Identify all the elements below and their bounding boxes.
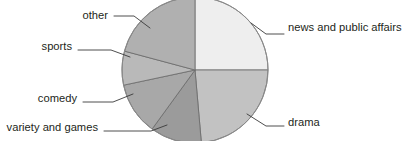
leader-line-drama: [247, 114, 284, 126]
slice-label-drama: drama: [288, 116, 320, 128]
slice-label-variety-and-games: variety and games: [7, 121, 99, 133]
slice-label-comedy: comedy: [38, 92, 78, 104]
slice-label-sports: sports: [42, 40, 73, 52]
pie-chart-svg: news and public affairsdramavariety and …: [0, 0, 420, 141]
pie-slices-group: [122, 0, 268, 141]
pie-slice-drama: [195, 70, 268, 141]
pie-slice-news-and-public-affairs: [195, 0, 268, 70]
pie-chart-figure: news and public affairsdramavariety and …: [0, 0, 420, 141]
leader-line-sports: [78, 50, 130, 57]
slice-label-news-and-public-affairs: news and public affairs: [288, 21, 402, 33]
slice-label-other: other: [83, 9, 109, 21]
leader-line-comedy: [83, 94, 133, 102]
